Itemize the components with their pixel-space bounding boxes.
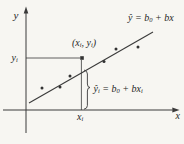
data-point xyxy=(41,87,44,90)
data-point xyxy=(69,75,72,78)
data-point xyxy=(59,86,62,89)
x-axis-label: x xyxy=(175,110,181,121)
data-point xyxy=(137,46,140,49)
point-coordinates-label: (xi, yi) xyxy=(72,37,97,49)
data-point xyxy=(115,48,118,51)
observed-point xyxy=(80,56,84,60)
least-squares-figure: y x yi xi (xi, yi) ŷ = b0 + bx ŷi = b0 +… xyxy=(0,0,184,144)
y-axis-label: y xyxy=(13,9,19,21)
data-point xyxy=(103,60,106,63)
